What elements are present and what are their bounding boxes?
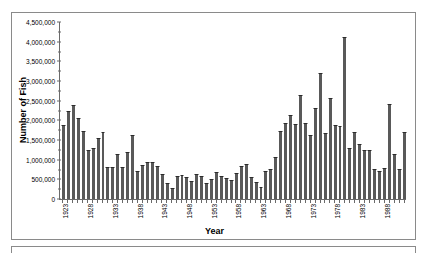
y-tick-label: 1,000,000 [26, 156, 60, 163]
x-tick-mark [389, 199, 390, 203]
x-tick-mark [270, 199, 271, 203]
x-tick-mark [344, 199, 345, 203]
y-tick-mark [57, 179, 61, 180]
y-tick-mark [57, 41, 61, 42]
x-tick-mark [156, 199, 157, 203]
x-tick-mark [221, 199, 222, 203]
x-tick-mark [102, 199, 103, 203]
x-tick-mark [77, 199, 78, 203]
x-tick-mark [191, 199, 192, 203]
y-tick-mark-minor [58, 90, 61, 91]
y-tick-mark-minor [58, 71, 61, 72]
chart-frame: Number of Fish 4,500,0004,000,0003,500,0… [11, 12, 416, 240]
x-tick-mark [107, 199, 108, 203]
x-tick-label: 1963 [260, 204, 267, 218]
x-tick-label: 1983 [359, 204, 366, 218]
x-tick-mark [67, 199, 68, 203]
x-tick-label: 1938 [137, 204, 144, 218]
x-tick-label: 1953 [211, 204, 218, 218]
x-tick-mark [275, 199, 276, 203]
x-tick-mark [394, 199, 395, 203]
y-tick-label: 4,500,000 [26, 19, 60, 26]
x-tick-mark [310, 199, 311, 203]
x-tick-mark [161, 199, 162, 203]
x-tick-mark [384, 199, 385, 203]
x-tick-mark [92, 199, 93, 203]
x-tick-mark [359, 199, 360, 203]
y-tick-label: 3,000,000 [26, 78, 60, 85]
x-tick-mark [369, 199, 370, 203]
x-tick-mark [82, 199, 83, 203]
y-tick-mark [57, 159, 61, 160]
x-tick-mark [206, 199, 207, 203]
x-tick-mark [300, 199, 301, 203]
x-tick-mark [399, 199, 400, 203]
y-tick-label: 2,500,000 [26, 97, 60, 104]
x-tick-mark [305, 199, 306, 203]
x-tick-mark [166, 199, 167, 203]
x-tick-mark [231, 199, 232, 203]
x-tick-mark [127, 199, 128, 203]
y-tick-mark-minor [58, 31, 61, 32]
x-tick-mark [181, 199, 182, 203]
y-tick-mark [57, 120, 61, 121]
x-tick-mark [235, 199, 236, 203]
plot-inner [60, 22, 406, 199]
x-tick-mark [260, 199, 261, 203]
x-tick-mark [364, 199, 365, 203]
x-tick-label: 1978 [334, 204, 341, 218]
y-tick-mark-minor [58, 130, 61, 131]
plot-area: 4,500,0004,000,0003,500,0003,000,0002,50… [59, 22, 406, 200]
x-tick-mark [211, 199, 212, 203]
y-tick-mark [57, 100, 61, 101]
x-tick-label: 1923 [62, 204, 69, 218]
x-tick-mark [349, 199, 350, 203]
x-tick-label: 1968 [285, 204, 292, 218]
x-tick-mark [122, 199, 123, 203]
y-tick-mark-minor [58, 110, 61, 111]
bar-series [61, 21, 407, 199]
x-tick-mark [176, 199, 177, 203]
secondary-panel [11, 246, 416, 253]
x-tick-mark [97, 199, 98, 203]
y-tick-label: 500,000 [32, 176, 61, 183]
x-tick-mark [196, 199, 197, 203]
x-tick-mark [250, 199, 251, 203]
x-tick-mark [280, 199, 281, 203]
y-tick-mark [57, 81, 61, 82]
x-tick-mark [265, 199, 266, 203]
x-tick-mark [201, 199, 202, 203]
x-tick-mark [315, 199, 316, 203]
x-tick-mark [117, 199, 118, 203]
y-tick-mark-minor [58, 51, 61, 52]
x-tick-label: 1958 [235, 204, 242, 218]
y-tick-label: 3,500,000 [26, 58, 60, 65]
bar [402, 132, 407, 199]
y-tick-mark-minor [58, 149, 61, 150]
x-tick-label: 1928 [87, 204, 94, 218]
x-tick-label: 1948 [186, 204, 193, 218]
x-tick-label: 1988 [384, 204, 391, 218]
x-tick-mark [329, 199, 330, 203]
x-tick-label: 1943 [161, 204, 168, 218]
x-tick-mark [137, 199, 138, 203]
x-tick-mark [87, 199, 88, 203]
x-tick-mark [374, 199, 375, 203]
x-tick-label: 1933 [112, 204, 119, 218]
x-tick-mark [132, 199, 133, 203]
y-tick-label: 4,000,000 [26, 38, 60, 45]
x-tick-mark [216, 199, 217, 203]
x-tick-mark [290, 199, 291, 203]
x-tick-mark [255, 199, 256, 203]
x-tick-mark [245, 199, 246, 203]
y-tick-mark [57, 61, 61, 62]
x-tick-mark [72, 199, 73, 203]
y-tick-mark [57, 140, 61, 141]
x-tick-mark [171, 199, 172, 203]
x-tick-mark [320, 199, 321, 203]
y-tick-mark [57, 22, 61, 23]
chart-screenshot: Number of Fish 4,500,0004,000,0003,500,0… [0, 0, 427, 253]
x-tick-label: 1973 [310, 204, 317, 218]
x-tick-mark [240, 199, 241, 203]
y-tick-mark-minor [58, 189, 61, 190]
